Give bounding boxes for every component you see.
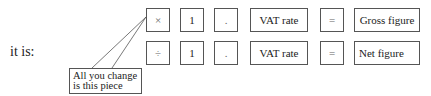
net-figure-label: Net figure [359,47,404,59]
equals-box: = [320,8,344,32]
decimal-point: . [225,47,228,59]
decimal-point: . [225,14,228,26]
gross-figure-label: Gross figure [360,14,415,26]
decimal-point-box: . [214,41,238,65]
one-box: 1 [180,8,204,32]
one-value: 1 [189,14,195,26]
vat-rate-box: VAT rate [250,41,308,65]
operator-multiply: × [155,14,161,26]
vat-rate-label: VAT rate [259,14,298,26]
net-figure-box: Net figure [354,41,420,65]
equals-box: = [320,41,344,65]
decimal-point-box: . [214,8,238,32]
equals-sign: = [329,47,335,59]
operator-multiply-box: × [146,8,170,32]
operator-divide-box: ÷ [146,41,170,65]
vat-rate-label: VAT rate [259,47,298,59]
callout-box: All you change is this piece [69,68,142,94]
operator-divide: ÷ [155,47,161,59]
callout-line-2: is this piece [73,81,138,91]
vat-rate-box: VAT rate [250,8,308,32]
one-box: 1 [180,41,204,65]
equals-sign: = [329,14,335,26]
gross-figure-box: Gross figure [354,8,420,32]
one-value: 1 [189,47,195,59]
